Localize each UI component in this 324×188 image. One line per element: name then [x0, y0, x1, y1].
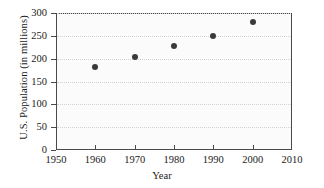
y-tick-label: 300 [7, 8, 47, 19]
gridline [57, 82, 291, 83]
population-scatter-chart: U.S. Population (in millions) 0501001502… [0, 0, 324, 188]
y-tick-mark [51, 127, 56, 128]
gridline [57, 36, 291, 37]
x-tick-label: 1950 [36, 155, 76, 166]
y-tick-mark [51, 104, 56, 105]
y-tick-mark [51, 36, 56, 37]
y-tick-label: 0 [7, 145, 47, 156]
y-tick-label: 150 [7, 77, 47, 88]
x-tick-mark [95, 145, 96, 150]
y-tick-label: 50 [7, 122, 47, 133]
x-tick-mark [174, 145, 175, 150]
x-axis-label: Year [0, 170, 324, 181]
y-tick-label: 100 [7, 99, 47, 110]
x-tick-label: 1970 [115, 155, 155, 166]
gridline [57, 59, 291, 60]
plot-area [56, 13, 292, 150]
y-tick-label: 250 [7, 31, 47, 42]
x-tick-mark [135, 145, 136, 150]
x-tick-label: 1980 [154, 155, 194, 166]
x-tick-label: 2010 [272, 155, 312, 166]
gridline [57, 104, 291, 105]
x-tick-mark [213, 145, 214, 150]
x-tick-label: 2000 [233, 155, 273, 166]
y-tick-mark [51, 13, 56, 14]
x-tick-mark [253, 145, 254, 150]
x-tick-label: 1960 [75, 155, 115, 166]
y-tick-mark [51, 59, 56, 60]
gridline [57, 127, 291, 128]
y-tick-mark [51, 82, 56, 83]
data-point [250, 19, 256, 25]
gridline [57, 13, 291, 14]
y-tick-mark [51, 150, 56, 151]
x-tick-label: 1990 [193, 155, 233, 166]
y-tick-label: 200 [7, 54, 47, 65]
